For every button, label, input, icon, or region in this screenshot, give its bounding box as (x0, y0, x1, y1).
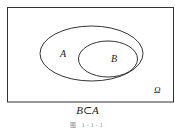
figure-caption: 图 1-1-1 (0, 120, 175, 128)
set-a-label: A (59, 48, 67, 59)
universe-rectangle (8, 8, 174, 103)
relation-caption: B⊂A (0, 104, 175, 117)
set-b-ellipse (79, 41, 138, 77)
universe-label: Ω (154, 85, 161, 95)
set-b-label: B (111, 53, 117, 64)
